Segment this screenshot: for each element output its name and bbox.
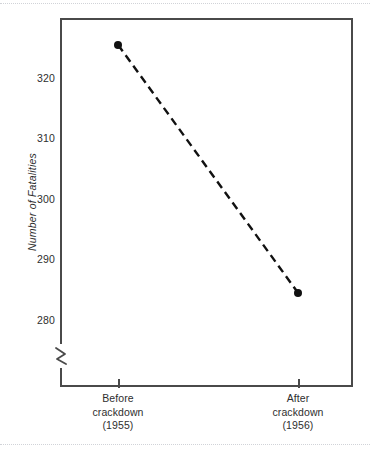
y-axis-break-icon	[52, 344, 70, 368]
page-rule-bottom	[0, 444, 370, 446]
x-tick-label-after-line1: After	[233, 392, 363, 406]
x-tick-after	[298, 379, 300, 388]
y-tick-label-310: 310	[9, 133, 55, 144]
x-tick-label-before-line2: crackdown	[53, 406, 183, 420]
x-tick-label-before-line1: Before	[53, 392, 183, 406]
chart-figure: Number of Fatalities 320 310 300 290 280…	[0, 0, 370, 453]
y-tick-label-290: 290	[9, 254, 55, 265]
page-rule-top	[0, 3, 370, 5]
plot-area	[60, 18, 353, 387]
x-tick-label-after-line2: crackdown	[233, 406, 363, 420]
x-tick-label-after: After crackdown (1956)	[233, 392, 363, 433]
y-tick-label-320: 320	[9, 73, 55, 84]
y-tick-label-280: 280	[9, 315, 55, 326]
y-tick-label-300: 300	[9, 194, 55, 205]
x-tick-label-before: Before crackdown (1955)	[53, 392, 183, 433]
x-tick-before	[118, 379, 120, 388]
x-tick-label-before-line3: (1955)	[53, 419, 183, 433]
x-tick-label-after-line3: (1956)	[233, 419, 363, 433]
